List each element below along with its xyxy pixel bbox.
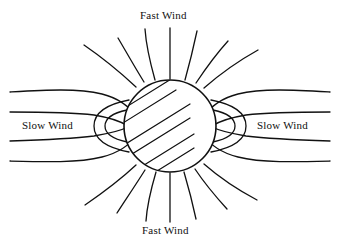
solar-wind-diagram: Fast Wind Fast Wind Slow Wind Slow Wind xyxy=(0,0,340,248)
sun-disk xyxy=(86,48,216,232)
label-slow-wind-left: Slow Wind xyxy=(20,119,75,131)
fast-wind-radial-lines-top xyxy=(84,28,258,88)
label-slow-wind-right: Slow Wind xyxy=(255,119,310,131)
label-fast-wind-top: Fast Wind xyxy=(138,9,189,21)
label-fast-wind-bottom: Fast Wind xyxy=(140,224,191,236)
